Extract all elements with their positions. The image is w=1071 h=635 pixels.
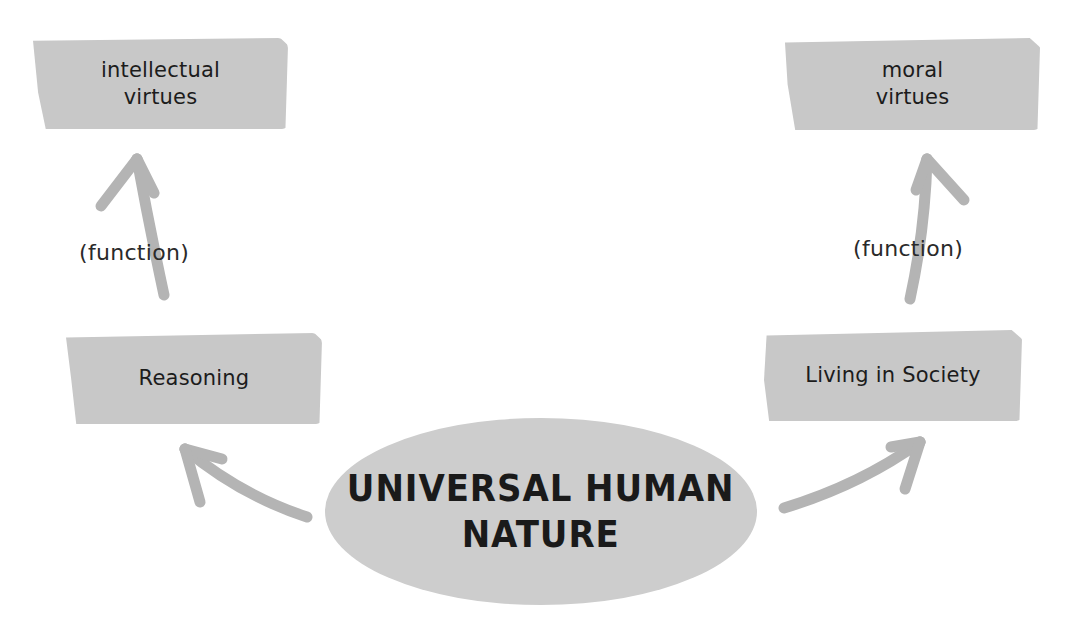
universal-human-nature-title: UNIVERSAL HUMAN NATURE xyxy=(347,466,735,558)
center-title-line2: NATURE xyxy=(347,512,735,558)
arrow-nature-to-reasoning-icon xyxy=(185,449,307,517)
arrow-society-to-moral-icon xyxy=(910,159,964,299)
living-in-society-box: Living in Society xyxy=(764,330,1022,421)
arrow-reasoning-to-intellectual-icon xyxy=(101,159,164,295)
reasoning-box: Reasoning xyxy=(66,333,322,424)
moral-virtues-box: moral virtues xyxy=(785,38,1040,130)
function-label-right: (function) xyxy=(853,236,963,261)
moral-virtues-line2: virtues xyxy=(876,84,950,111)
center-title-line1: UNIVERSAL HUMAN xyxy=(347,466,735,512)
intellectual-virtues-line1: intellectual xyxy=(101,57,220,84)
intellectual-virtues-box: intellectual virtues xyxy=(33,38,288,129)
arrow-nature-to-society-icon xyxy=(784,442,920,508)
function-label-left: (function) xyxy=(79,240,189,265)
living-in-society-label: Living in Society xyxy=(805,362,980,389)
universal-human-nature-ellipse: UNIVERSAL HUMAN NATURE xyxy=(325,418,757,605)
intellectual-virtues-line2: virtues xyxy=(101,84,220,111)
moral-virtues-line1: moral xyxy=(876,57,950,84)
reasoning-label: Reasoning xyxy=(139,365,250,392)
diagram-canvas: intellectual virtues moral virtues (func… xyxy=(0,0,1071,635)
